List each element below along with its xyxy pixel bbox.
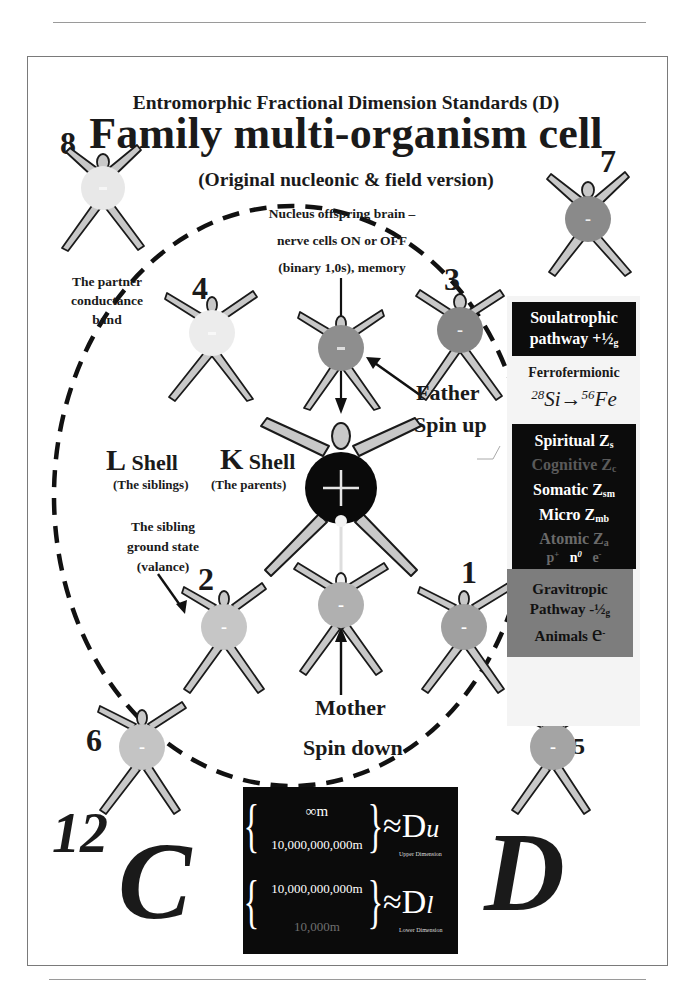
figure-mother: - [286,563,396,683]
upper-range-top: ∞m [257,803,377,820]
dimension-formula-box: { ∞m 10,000,000,000m } ≈Du Upper Dimensi… [243,787,458,954]
gravitropic-pathway-box: Gravitropic Pathway -½g Animals e- [507,569,633,657]
label-spin-down: Spin down [303,737,403,759]
particles-row: p+ n0 e- [512,549,636,566]
lower-dimension-symbol: ≈Dl [383,885,433,919]
figure-8-partner [42,140,162,260]
lower-dimension-caption: Lower Dimension [399,927,443,933]
figure-4 [157,289,267,409]
level-somatic: Somatic Zsm [512,481,636,499]
label-father: Father [416,382,480,404]
carbon-symbol: C [118,826,191,936]
level-cognitive: Cognitive Zc [512,456,636,474]
lower-range-top: 10,000,000,000m [257,881,377,897]
label-l-shell: L Shell [106,445,178,475]
z-levels-box: Spiritual Zs Cognitive Zc Somatic Zsm Mi… [512,424,636,569]
figure-father [286,304,396,414]
ferrofermionic-reaction: 28Si→56Fe [512,383,636,411]
label-partner-band: The partner conductance band [52,268,162,333]
svg-text:-: - [338,595,344,615]
level-atomic: Atomic Za [512,530,636,548]
svg-text:-: - [139,737,145,757]
svg-text:-: - [550,737,556,757]
upper-dimension-symbol: ≈Du [383,809,439,843]
lower-range-bottom: 10,000m [257,919,377,935]
ferrofermionic-label: Ferrofermionic [512,366,636,380]
figure-1: - [412,583,522,703]
svg-text:-: - [221,617,227,637]
label-nucleus-note: Nucleus offspring brain – nerve cells ON… [250,200,434,281]
label-k-shell-desc: (The parents) [211,478,286,491]
figure-nucleus [241,410,441,580]
lower-right-brace: } [367,871,383,931]
level-micro: Micro Zmb [512,506,636,524]
dimension-symbol: D [484,816,565,928]
label-l-shell-desc: (The siblings) [113,478,189,491]
upper-right-brace: } [367,795,383,855]
svg-text:-: - [457,320,463,340]
soulatrophic-pathway-box: Soulatrophic pathway +½g [512,302,636,356]
carbon-mass-number: 12 [52,805,108,861]
upper-range-bottom: 10,000,000,000m [257,837,377,853]
figure-2: - [176,583,286,703]
label-mother: Mother [315,697,386,719]
upper-dimension-caption: Upper Dimension [399,851,442,857]
svg-text:-: - [461,617,467,637]
figure-7: - [527,168,647,288]
svg-text:-: - [585,209,591,229]
label-k-shell: K Shell [220,444,295,474]
level-spiritual: Spiritual Zs [512,432,636,450]
